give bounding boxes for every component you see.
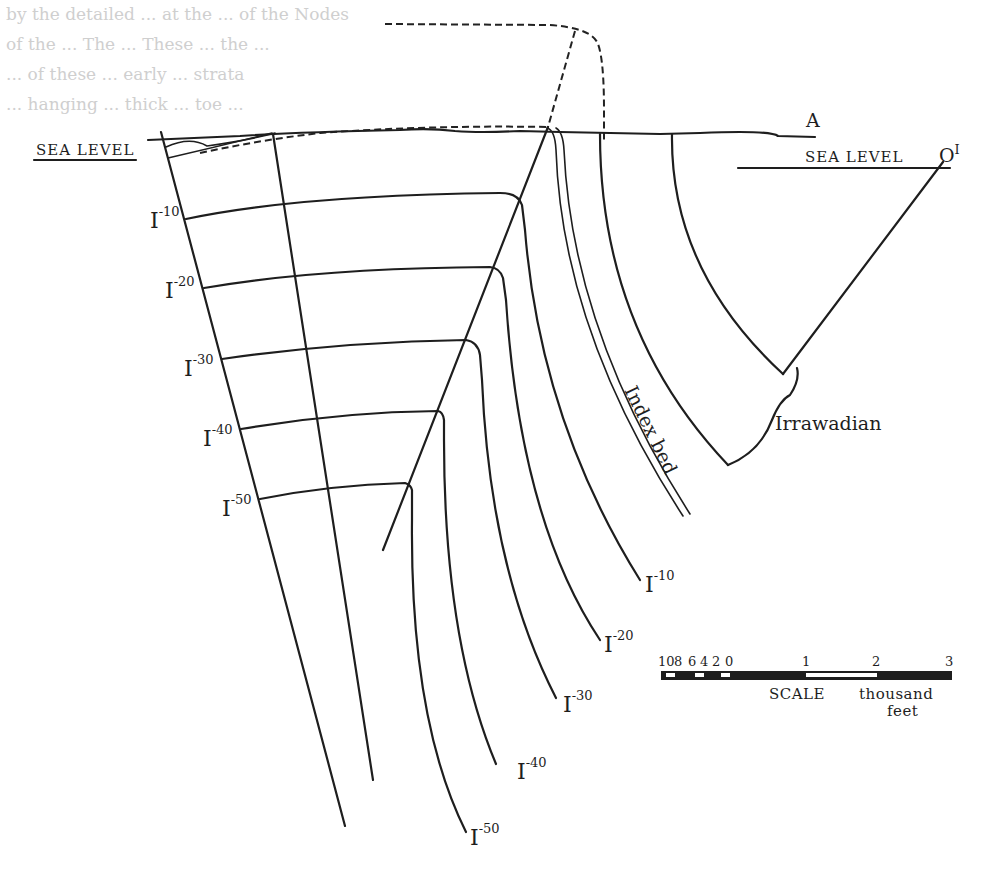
cross-section-figure: by the detailed ... at the ... of the No… [0,0,985,873]
sea-level-label-left: SEA LEVEL [36,141,134,159]
svg-text:... hanging ... thick ... toe: ... hanging ... thick ... toe ... [6,94,244,114]
axial-trace-line [383,127,548,550]
left-boundary-line [161,132,345,826]
bleed-through-text: by the detailed ... at the ... of the No… [6,4,349,114]
isopach-labels-bottom: I-10 I-20 I-30 I-40 I-50 [470,568,675,850]
isopach-label: I-40 [203,422,233,451]
scale-bar-white-segment [806,673,877,677]
isopach-label: I-20 [165,274,195,303]
isopach-label: I-30 [184,352,214,381]
point-o-label: OI [939,142,960,166]
isopach-label: I-50 [222,492,252,521]
scale-label: SCALE [769,685,825,703]
isopach-label: I-20 [604,628,634,657]
radial-line-2 [273,134,373,780]
svg-text:1: 1 [802,654,810,669]
sea-level-label-right: SEA LEVEL [805,148,903,166]
isopach-label: I-50 [470,821,500,850]
svg-text:2: 2 [712,654,720,669]
scale-unit-line1: thousand [859,685,933,703]
svg-text:10: 10 [658,654,675,669]
irrawadian-label: Irrawadian [775,412,881,434]
isopach-label: I-30 [563,688,593,717]
svg-text:of the ... The ... These ... t: of the ... The ... These ... the ... [6,34,270,54]
svg-text:6: 6 [688,654,696,669]
svg-text:3: 3 [945,654,953,669]
isopach-labels-left: I-10 I-20 I-30 I-40 I-50 [150,204,252,521]
svg-text:4: 4 [700,654,708,669]
isopach-curves [412,230,640,832]
isopach-label: I-40 [517,755,547,784]
svg-text:by the detailed ... at the ...: by the detailed ... at the ... of the No… [6,4,349,24]
svg-text:2: 2 [872,654,880,669]
isopach-label: I-10 [150,204,180,233]
scale-bar: 10 8 6 4 2 0 1 2 3 SCALE thousand feet [658,654,953,720]
scale-unit-line2: feet [887,702,918,720]
point-a-label: A [805,109,820,131]
diagram-canvas: by the detailed ... at the ... of the No… [0,0,985,873]
isopach-bands-left [186,193,525,520]
svg-text:8: 8 [674,654,682,669]
svg-text:... of these ... early ... str: ... of these ... early ... strata [6,64,244,84]
svg-text:0: 0 [725,654,733,669]
isopach-label: I-10 [645,568,675,597]
